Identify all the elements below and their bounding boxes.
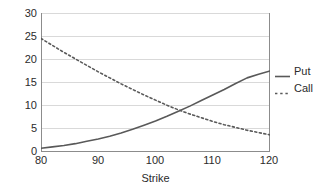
- options-price-chart: 30 25 20 15 10 5 0 80 90 100 110 120 Str…: [0, 0, 323, 192]
- legend-label-put: Put: [294, 66, 311, 77]
- x-tick-90: 90: [78, 155, 118, 166]
- x-tick-100: 100: [135, 155, 175, 166]
- legend-dashed-line-icon: [275, 84, 290, 93]
- x-tick-80: 80: [21, 155, 61, 166]
- legend-label-call: Call: [294, 83, 313, 94]
- x-axis-title: Strike: [41, 173, 270, 184]
- legend-item-put: Put: [275, 63, 323, 80]
- x-tick-120: 120: [249, 155, 289, 166]
- chart-legend: Put Call: [275, 63, 323, 97]
- x-tick-110: 110: [192, 155, 232, 166]
- legend-item-call: Call: [275, 80, 323, 97]
- legend-solid-line-icon: [275, 67, 290, 76]
